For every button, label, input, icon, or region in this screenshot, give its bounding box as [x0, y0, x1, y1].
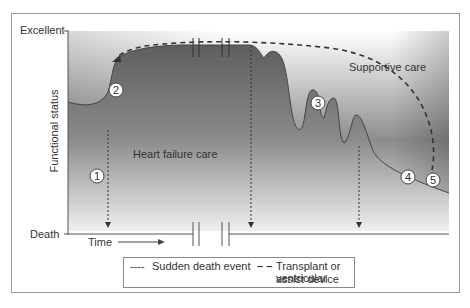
marker-5: 5 — [430, 174, 436, 186]
marker-1: 1 — [94, 170, 100, 182]
supportive-care-label: Supportive care — [349, 61, 426, 73]
x-axis-label: Time — [88, 236, 112, 248]
legend-sudden-death: Sudden death event — [152, 260, 250, 272]
y-axis-label: Functional status — [48, 89, 60, 172]
y-axis-top-label: Excellent — [20, 24, 65, 36]
legend: ---- Sudden death event – – Transplant o… — [123, 257, 355, 288]
transplant-glyph: – – — [257, 260, 272, 272]
time-arrow-icon — [158, 239, 165, 245]
heart-failure-care-label: Heart failure care — [133, 148, 217, 160]
sudden-death-glyph: ---- — [130, 260, 145, 272]
legend-transplant-line2: assist device — [276, 273, 339, 285]
marker-4: 4 — [405, 171, 411, 183]
marker-2: 2 — [113, 84, 119, 96]
y-axis-bottom-label: Death — [30, 228, 59, 240]
marker-3: 3 — [315, 97, 321, 109]
